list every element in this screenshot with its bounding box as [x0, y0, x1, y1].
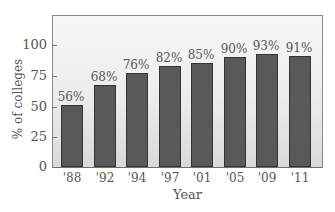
ytick-mark-100 — [52, 45, 57, 46]
plot-area — [52, 15, 323, 168]
bar-94 — [126, 73, 148, 167]
ytick-mark-75 — [52, 76, 57, 77]
bar-97 — [159, 66, 181, 167]
bar-88 — [61, 105, 83, 167]
ytick-mark-50 — [52, 107, 57, 108]
data-label-11: 91% — [279, 41, 319, 55]
ytick-label-100: 100 — [17, 37, 47, 52]
data-label-88: 56% — [51, 90, 91, 104]
bar-11 — [289, 56, 311, 167]
x-axis-title: Year — [0, 187, 335, 202]
bar-05 — [224, 57, 246, 167]
data-label-92: 68% — [84, 70, 124, 84]
bar-09 — [256, 54, 278, 167]
y-axis-title: % of colleges — [11, 54, 25, 144]
bar-01 — [191, 63, 213, 167]
ytick-label-0: 0 — [17, 159, 47, 174]
bar-92 — [94, 85, 116, 167]
ytick-mark-25 — [52, 137, 57, 138]
xtick-label-11: '11 — [280, 171, 320, 185]
